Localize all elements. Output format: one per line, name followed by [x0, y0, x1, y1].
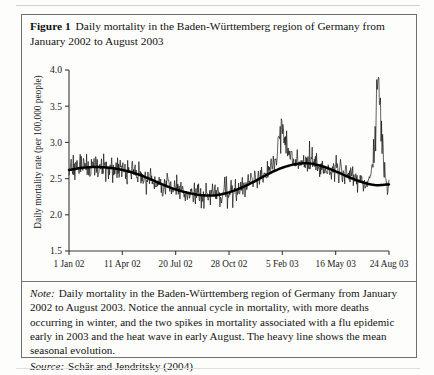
x-axis-tick-label: 24 Aug 03 — [370, 259, 409, 269]
y-axis-tick-label: 2.5 — [50, 173, 62, 184]
chart-plot-area: Daily mortality rate (per 100,000 people… — [22, 55, 416, 279]
series-mean-seasonal — [69, 163, 389, 195]
figure-box: Figure 1Daily mortality in the Baden-Wür… — [21, 14, 417, 358]
y-axis-ticks: 1.52.02.53.03.54.0 — [50, 64, 69, 256]
x-axis-tick-label: 28 Oct 02 — [211, 259, 248, 269]
page-bottom-rule — [16, 368, 420, 369]
x-axis-tick-label: 1 Jan 02 — [54, 259, 85, 269]
chart-axes — [69, 70, 389, 251]
y-axis-tick-label: 1.5 — [50, 245, 62, 256]
figure-caption: Figure 1Daily mortality in the Baden-Wür… — [30, 19, 412, 48]
page-canvas: Figure 1Daily mortality in the Baden-Wür… — [0, 0, 434, 375]
figure-number-label: Figure 1 — [30, 20, 71, 32]
x-axis-tick-label: 20 Jul 02 — [159, 259, 193, 269]
y-axis-tick-label: 4.0 — [50, 64, 62, 75]
y-axis-tick-label: 3.5 — [50, 101, 62, 112]
figure-source: Source:Schär and Jendritsky (2004) — [30, 359, 408, 373]
x-axis-tick-label: 16 May 03 — [316, 259, 357, 269]
figure-note: Note:Daily mortality in the Baden-Württe… — [30, 286, 408, 357]
y-axis-tick-label: 2.0 — [50, 209, 62, 220]
source-label: Source: — [30, 360, 64, 372]
page-top-rule — [16, 5, 420, 6]
note-label: Note: — [30, 287, 55, 299]
y-axis-tick-label: 3.0 — [50, 137, 62, 148]
note-divider — [22, 281, 416, 282]
x-axis-tick-label: 11 Apr 02 — [104, 259, 141, 269]
mortality-line-chart: 1.52.02.53.03.54.0 1 Jan 0211 Apr 0220 J… — [22, 55, 416, 279]
series-daily-mortality — [69, 77, 389, 208]
source-text: Schär and Jendritsky (2004) — [68, 360, 193, 372]
x-axis-ticks: 1 Jan 0211 Apr 0220 Jul 0228 Oct 025 Feb… — [54, 251, 409, 269]
x-axis-tick-label: 5 Feb 03 — [266, 259, 299, 269]
figure-caption-text: Daily mortality in the Baden-Württemberg… — [30, 20, 385, 47]
chart-series — [69, 77, 389, 208]
note-text: Daily mortality in the Baden-Württemberg… — [30, 287, 397, 356]
